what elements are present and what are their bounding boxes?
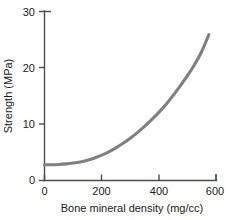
y-tick-label-0: 0 [29,174,35,186]
y-tick-label-10: 10 [23,118,35,130]
x-tick-label-0: 0 [41,185,47,197]
y-tick-label-20: 20 [23,62,35,74]
y-axis-title: Strength (MPa) [2,59,14,134]
x-axis-ticks [45,175,217,181]
data-curve-strength [45,35,209,165]
chart-figure: 0 10 20 30 0 200 400 600 Bone mineral de… [0,0,226,220]
x-tick-label-200: 200 [92,185,110,197]
x-tick-label-600: 600 [206,185,224,197]
y-tick-label-30: 30 [23,6,35,18]
chart-canvas: 0 10 20 30 0 200 400 600 Bone mineral de… [0,0,226,220]
y-axis-ticks [39,12,45,181]
x-tick-label-400: 400 [150,185,168,197]
x-axis-title: Bone mineral density (mg/cc) [61,202,203,214]
